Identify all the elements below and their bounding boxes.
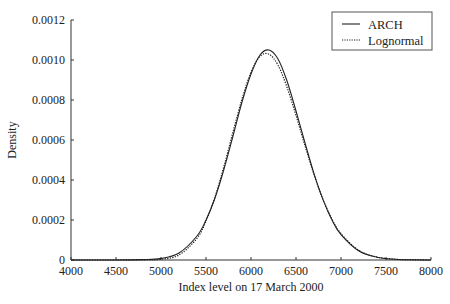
y-tick-label: 0.0008 [32,93,65,107]
y-tick-label: 0.0012 [32,13,65,27]
x-tick-label: 6500 [284,264,308,278]
y-tick-label: 0.0004 [32,173,65,187]
y-axis-ticks: 00.00020.00040.00060.00080.00100.0012 [32,13,74,267]
density-chart: 00.00020.00040.00060.00080.00100.0012 40… [0,0,450,304]
x-tick-label: 6000 [239,264,263,278]
x-tick-label: 5500 [194,264,218,278]
x-axis-title: Index level on 17 March 2000 [179,280,324,294]
legend-label-lognormal: Lognormal [368,34,424,48]
x-tick-label: 7000 [329,264,353,278]
x-tick-label: 5000 [149,264,173,278]
legend: ARCH Lognormal [332,12,432,50]
y-axis-title: Density [5,121,19,158]
lognormal-density-curve [71,53,431,260]
x-tick-label: 7500 [374,264,398,278]
x-tick-label: 8000 [419,264,443,278]
x-tick-label: 4500 [104,264,128,278]
legend-label-arch: ARCH [368,18,403,32]
arch-density-curve [71,50,431,260]
y-tick-label: 0.0006 [32,133,65,147]
y-tick-label: 0.0002 [32,213,65,227]
y-tick-label: 0.0010 [32,53,65,67]
x-tick-label: 4000 [59,264,83,278]
